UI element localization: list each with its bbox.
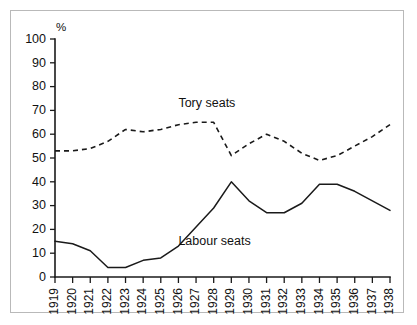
x-axis-ticks: [55, 277, 390, 283]
x-tick-label-1928: 1928: [206, 288, 220, 315]
x-tick-label-1929: 1929: [223, 288, 237, 315]
x-tick-label-1933: 1933: [294, 288, 308, 315]
y-tick-label-40: 40: [32, 175, 46, 189]
y-axis-unit-label: %: [56, 21, 66, 33]
y-tick-label-70: 70: [32, 103, 46, 117]
x-tick-label-1920: 1920: [65, 288, 79, 315]
y-tick-label-20: 20: [32, 222, 46, 236]
x-tick-label-1931: 1931: [259, 288, 273, 315]
x-tick-label-1932: 1932: [276, 288, 290, 315]
x-axis-tick-labels: 1919192019211922192319241925192619271928…: [47, 288, 396, 315]
x-tick-label-1922: 1922: [100, 288, 114, 315]
y-tick-label-80: 80: [32, 79, 46, 93]
x-tick-label-1936: 1936: [347, 288, 361, 315]
y-axis-tick-labels: 0102030405060708090100: [25, 32, 46, 284]
x-tick-label-1927: 1927: [188, 288, 202, 315]
series-line-labour-seats: [55, 182, 390, 268]
y-tick-label-50: 50: [32, 151, 46, 165]
y-tick-label-10: 10: [32, 246, 46, 260]
x-tick-label-1930: 1930: [241, 288, 255, 315]
x-tick-label-1923: 1923: [118, 288, 132, 315]
series-line-tory-seats: [55, 122, 390, 160]
x-tick-label-1938: 1938: [382, 288, 396, 315]
y-tick-label-100: 100: [25, 32, 46, 46]
chart-page: % 0102030405060708090100 191919201921192…: [0, 0, 417, 325]
line-chart: % 0102030405060708090100 191919201921192…: [0, 0, 417, 325]
x-tick-label-1934: 1934: [312, 288, 326, 315]
x-tick-label-1925: 1925: [153, 288, 167, 315]
y-tick-label-90: 90: [32, 56, 46, 70]
x-tick-label-1919: 1919: [47, 288, 61, 315]
series-label-labour-seats: Labour seats: [178, 234, 250, 248]
y-tick-label-30: 30: [32, 198, 46, 212]
series-label-tory-seats: Tory seats: [178, 96, 235, 110]
x-tick-label-1937: 1937: [365, 288, 379, 315]
y-tick-label-0: 0: [39, 270, 46, 284]
x-tick-label-1921: 1921: [82, 288, 96, 315]
x-tick-label-1924: 1924: [135, 288, 149, 315]
x-tick-label-1935: 1935: [329, 288, 343, 315]
y-tick-label-60: 60: [32, 127, 46, 141]
series-annotation-labels: Tory seatsLabour seats: [178, 96, 250, 248]
x-tick-label-1926: 1926: [171, 288, 185, 315]
